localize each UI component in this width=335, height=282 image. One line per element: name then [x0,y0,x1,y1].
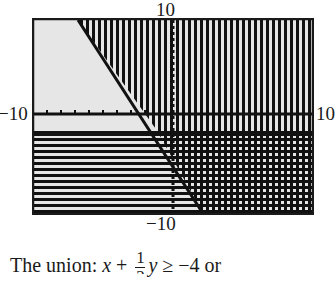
caption: The union: x + 12y ≥ −4 or [10,254,221,280]
caption-var-x: x [102,254,111,276]
caption-relation: ≥ −4 or [157,254,221,276]
fraction-denominator: 2 [135,268,145,274]
caption-plus: + [111,254,132,276]
fraction-numerator: 1 [135,249,145,266]
calculator-graph [32,18,314,215]
y-max-label: 10 [156,0,175,19]
caption-var-y: y [148,254,157,276]
y-min-label: −10 [146,214,176,233]
caption-prefix: The union: [10,254,102,276]
x-min-label: −10 [0,104,28,123]
caption-fraction: 12 [135,249,145,274]
x-max-label: 10 [316,104,335,123]
